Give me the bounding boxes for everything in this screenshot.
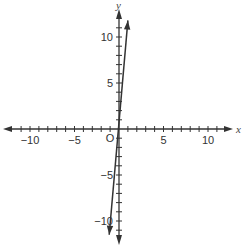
x-axis-label: x (235, 123, 241, 135)
y-axis-label: y (115, 0, 121, 11)
x-tick-label: 5 (160, 134, 166, 146)
y-tick-label: 10 (101, 31, 113, 43)
x-axis-left-arrow-icon (3, 126, 12, 132)
y-axis-down-arrow-icon (116, 235, 122, 245)
origin-label: O (106, 132, 115, 144)
x-axis-right-arrow-icon (224, 126, 233, 132)
x-tick-label: −10 (21, 134, 40, 146)
y-tick-label: −5 (100, 169, 113, 181)
y-tick-label: 5 (107, 77, 113, 89)
graph: −10−5510105−5−10Oxy (0, 0, 243, 248)
x-tick-label: −5 (68, 134, 81, 146)
x-tick-label: 10 (202, 134, 214, 146)
coordinate-plane: −10−5510105−5−10Oxy (0, 0, 243, 248)
